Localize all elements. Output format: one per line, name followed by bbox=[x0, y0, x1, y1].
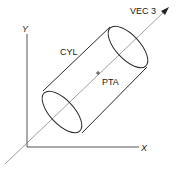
x-axis-label: X bbox=[140, 143, 148, 153]
point-label: PTA bbox=[102, 77, 119, 87]
vector-axis-line bbox=[5, 10, 166, 164]
cylinder-label: CYL bbox=[60, 47, 78, 57]
cylinder-front-cap bbox=[35, 85, 88, 139]
cylinder-diagram: Y X CYL PTA VEC 3 bbox=[0, 0, 177, 178]
y-axis-label: Y bbox=[22, 24, 29, 34]
cylinder-upper-edge bbox=[43, 27, 110, 91]
vector-label: VEC 3 bbox=[130, 6, 156, 16]
